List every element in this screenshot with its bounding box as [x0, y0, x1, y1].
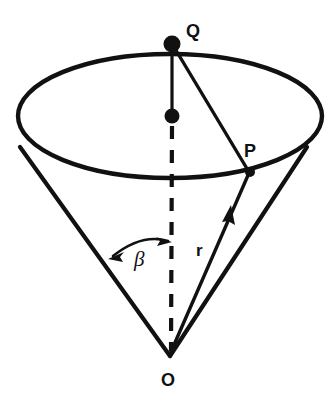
- label-point-q: Q: [186, 22, 200, 40]
- cone-diagram-canvas: [0, 0, 336, 420]
- point-q-dot: [164, 36, 181, 53]
- point-p-dot: [245, 167, 255, 177]
- vector-r-line: [170, 173, 249, 354]
- cone-diagram-figure: Q P O r β: [0, 0, 336, 420]
- point-center-dot: [165, 109, 180, 124]
- cone-axis-dashed-line: [171, 126, 172, 351]
- angle-beta-arrowhead-right: [156, 237, 172, 246]
- label-angle-beta: β: [134, 249, 144, 270]
- label-vector-r: r: [196, 242, 203, 259]
- chord-q-to-p-line: [174, 47, 249, 172]
- label-point-o: O: [161, 371, 175, 389]
- label-point-p: P: [244, 142, 256, 160]
